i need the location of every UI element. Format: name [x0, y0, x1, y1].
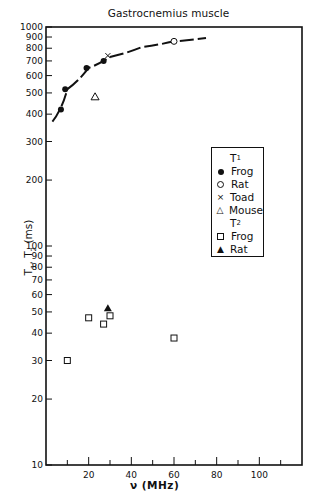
x-tick-label: 20	[83, 470, 95, 480]
x-tick-label: 100	[251, 470, 268, 480]
y-tick-label: 500	[26, 88, 43, 98]
t1-fit-curve	[52, 38, 206, 121]
legend: T1 Frog Rat ×Toad △Mouse T2 Frog ▲Rat	[211, 147, 264, 257]
filled-circle-icon	[218, 169, 224, 175]
y-tick-label: 700	[26, 56, 43, 66]
data-point-filled-circle	[84, 65, 90, 71]
y-tick-label: 10	[32, 460, 44, 470]
open-triangle-icon: △	[216, 206, 224, 215]
legend-item-t1-rat: Rat	[216, 178, 263, 191]
y-tick-label: 600	[26, 71, 43, 81]
x-mark-icon: ×	[216, 193, 225, 202]
y-tick-label: 40	[32, 328, 44, 338]
y-tick-label: 30	[32, 356, 44, 366]
legend-item-t2-frog: Frog	[216, 230, 263, 243]
data-point-filled-circle	[101, 58, 107, 64]
data-point-open-square	[171, 335, 177, 341]
legend-item-t1-toad: ×Toad	[216, 191, 263, 204]
data-point-open-circle	[171, 38, 177, 44]
data-point-filled-circle	[62, 86, 68, 92]
y-axis-label: T1, T2 (ms)	[22, 208, 37, 288]
data-point-filled-triangle	[104, 304, 112, 311]
legend-t1-heading: T1	[216, 152, 263, 165]
y-tick-label: 400	[26, 109, 43, 119]
y-tick-label: 50	[32, 307, 44, 317]
filled-triangle-icon: ▲	[216, 245, 225, 254]
y-tick-label: 20	[32, 394, 44, 404]
y-tick-label: 300	[26, 137, 43, 147]
plot-area: 1020304050607080901002003004005006007008…	[0, 0, 317, 500]
y-tick-label: 200	[26, 175, 43, 185]
x-axis-label: ν (MHz)	[130, 479, 179, 491]
legend-t2-heading: T2	[216, 217, 263, 230]
legend-item-t2-rat: ▲Rat	[216, 243, 263, 256]
data-point-open-square	[64, 358, 70, 364]
data-point-open-square	[107, 313, 113, 319]
open-square-icon	[217, 233, 224, 240]
x-tick-label: 80	[211, 470, 223, 480]
open-circle-icon	[217, 181, 224, 188]
legend-item-t1-mouse: △Mouse	[216, 204, 263, 217]
data-point-open-triangle	[91, 93, 99, 100]
legend-item-t1-frog: Frog	[216, 165, 263, 178]
y-tick-label: 800	[26, 43, 43, 53]
data-point-open-square	[86, 315, 92, 321]
y-tick-label: 60	[32, 290, 44, 300]
data-point-filled-circle	[58, 107, 64, 113]
data-point-x	[105, 53, 110, 58]
data-point-open-square	[101, 321, 107, 327]
y-tick-label: 900	[26, 32, 43, 42]
y-tick-label: 1000	[20, 22, 43, 32]
